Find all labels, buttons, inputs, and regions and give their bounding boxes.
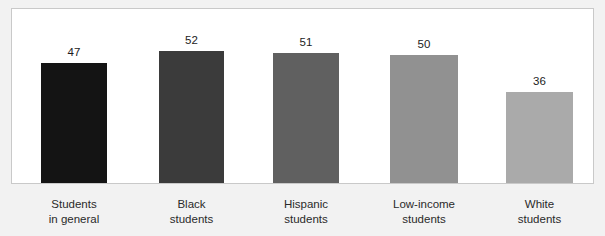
bar-value-label: 47 xyxy=(41,47,107,59)
bar-category-label-line1: Black xyxy=(177,198,205,210)
bar-group-low-income-students[interactable]: 50 Low-income students xyxy=(390,55,458,183)
bar-category-label-line1: Low-income xyxy=(393,198,455,210)
bar-rect[interactable] xyxy=(159,51,224,183)
bar-rect[interactable] xyxy=(41,63,107,183)
bar-category-label: White students xyxy=(465,197,605,227)
bar-value-label: 52 xyxy=(159,35,224,47)
bar-group-black-students[interactable]: 52 Black students xyxy=(159,51,224,183)
bar-category-label-line1: Students xyxy=(51,198,96,210)
bar-chart: 47 Students in general 52 Black students… xyxy=(0,0,605,236)
bar-group-white-students[interactable]: 36 White students xyxy=(506,92,573,183)
bar-category-label-line1: Hispanic xyxy=(284,198,328,210)
bar-rect[interactable] xyxy=(506,92,573,183)
bar-group-students-in-general[interactable]: 47 Students in general xyxy=(41,63,107,183)
bar-rect[interactable] xyxy=(390,55,458,183)
bar-value-label: 51 xyxy=(273,37,339,49)
bar-rect[interactable] xyxy=(273,53,339,183)
bar-category-label-line1: White xyxy=(525,198,554,210)
bar-value-label: 50 xyxy=(390,39,458,51)
bar-group-hispanic-students[interactable]: 51 Hispanic students xyxy=(273,53,339,183)
bar-category-label-line2: students xyxy=(465,212,605,227)
bar-value-label: 36 xyxy=(506,76,573,88)
